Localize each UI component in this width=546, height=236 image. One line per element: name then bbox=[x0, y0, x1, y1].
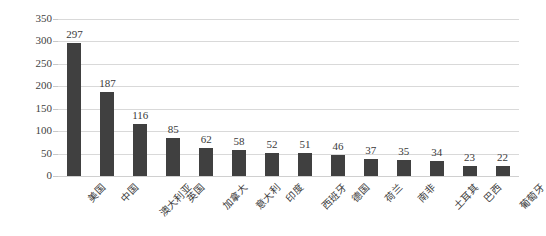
x-axis-category-label: 意大利 bbox=[254, 182, 283, 211]
bar-value-label: 51 bbox=[299, 139, 310, 150]
bar-value-label: 52 bbox=[267, 139, 278, 150]
bar bbox=[298, 153, 312, 176]
bar bbox=[67, 43, 81, 176]
bar bbox=[331, 155, 345, 176]
y-axis-tick-label: 300 bbox=[0, 35, 52, 46]
bar-value-label: 35 bbox=[398, 146, 409, 157]
bar bbox=[430, 161, 444, 176]
bar bbox=[232, 150, 246, 176]
bar-slot: 297 bbox=[58, 19, 91, 176]
y-axis-tick-label: 350 bbox=[0, 13, 52, 24]
bar-value-label: 297 bbox=[66, 29, 83, 40]
x-axis-category-label: 西班牙 bbox=[320, 182, 349, 211]
x-axis-category-label: 中国 bbox=[119, 182, 141, 204]
bar-value-label: 187 bbox=[99, 78, 116, 89]
y-axis-tick-label: 50 bbox=[0, 148, 52, 159]
y-axis-tick-label: 150 bbox=[0, 103, 52, 114]
y-axis-tick-label: 100 bbox=[0, 125, 52, 136]
x-axis-category-label: 德国 bbox=[350, 182, 372, 204]
bar-slot: 85 bbox=[157, 19, 190, 176]
bar-slot: 62 bbox=[190, 19, 223, 176]
bar-slot: 35 bbox=[387, 19, 420, 176]
plot-area: 2971871168562585251463735342322 bbox=[58, 19, 519, 176]
x-axis-category-label: 土耳其 bbox=[451, 182, 480, 211]
bar bbox=[463, 166, 477, 176]
bar bbox=[496, 166, 510, 176]
bar bbox=[397, 160, 411, 176]
bar-slot: 58 bbox=[223, 19, 256, 176]
x-axis-category-label: 巴西 bbox=[481, 182, 503, 204]
bar-value-label: 116 bbox=[132, 110, 148, 121]
bar bbox=[199, 148, 213, 176]
bar-slot: 116 bbox=[124, 19, 157, 176]
bar-value-label: 62 bbox=[201, 134, 212, 145]
bar-value-label: 85 bbox=[168, 124, 179, 135]
bar-value-label: 22 bbox=[497, 152, 508, 163]
gridline bbox=[58, 176, 519, 177]
bar-value-label: 37 bbox=[365, 145, 376, 156]
y-axis-tick-label: 200 bbox=[0, 80, 52, 91]
y-axis-tick-label: 250 bbox=[0, 58, 52, 69]
bar-value-label: 23 bbox=[464, 152, 475, 163]
bar bbox=[166, 138, 180, 176]
bar bbox=[133, 124, 147, 176]
bar-slot: 52 bbox=[256, 19, 289, 176]
x-axis-category-label: 葡萄牙 bbox=[517, 182, 546, 211]
bar bbox=[265, 153, 279, 176]
bar-value-label: 34 bbox=[431, 147, 442, 158]
bar-value-label: 46 bbox=[332, 141, 343, 152]
bar-slot: 37 bbox=[354, 19, 387, 176]
bar-slot: 46 bbox=[321, 19, 354, 176]
bar-slot: 34 bbox=[420, 19, 453, 176]
x-axis-category-label: 印度 bbox=[284, 182, 306, 204]
y-axis-tick-label: 0 bbox=[0, 170, 52, 181]
bar-slot: 187 bbox=[91, 19, 124, 176]
bar-slot: 22 bbox=[486, 19, 519, 176]
bar-slot: 51 bbox=[289, 19, 322, 176]
x-axis-category-label: 加拿大 bbox=[221, 182, 250, 211]
bar-value-label: 58 bbox=[234, 136, 245, 147]
bar-chart: 050100150200250300350 297187116856258525… bbox=[0, 0, 546, 236]
bar-slot: 23 bbox=[453, 19, 486, 176]
bar bbox=[100, 92, 114, 176]
bar bbox=[364, 159, 378, 176]
x-axis-category-label: 荷兰 bbox=[383, 182, 405, 204]
x-axis-category-label: 南非 bbox=[416, 182, 438, 204]
x-axis-category-label: 美国 bbox=[86, 182, 108, 204]
